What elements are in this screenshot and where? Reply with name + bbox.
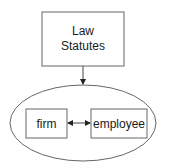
- firm-label: firm: [37, 117, 57, 131]
- firm-node: firm: [26, 109, 67, 138]
- law-statutes-label-line1: Law: [72, 24, 94, 38]
- law-statutes-label-line2: Statutes: [61, 39, 105, 53]
- employee-label: employee: [93, 117, 145, 131]
- employee-node: employee: [91, 109, 147, 138]
- diagram-canvas: Law Statutes firm employee: [0, 0, 169, 168]
- law-statutes-node: Law Statutes: [42, 12, 124, 66]
